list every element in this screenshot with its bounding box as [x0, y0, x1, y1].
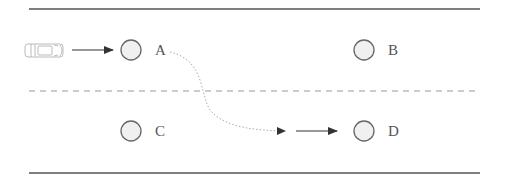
- node-b-label: B: [388, 43, 398, 58]
- node-d-label: D: [388, 124, 399, 139]
- node-d-circle: [354, 121, 374, 141]
- lane-change-arrowhead: [277, 127, 286, 135]
- node-a-label: A: [155, 43, 166, 58]
- node-c-circle: [121, 121, 141, 141]
- node-c-label: C: [155, 124, 165, 139]
- car-icon: [25, 44, 63, 57]
- node-b-circle: [354, 40, 374, 60]
- node-a-circle: [121, 40, 141, 60]
- lane-change-diagram: [0, 0, 505, 187]
